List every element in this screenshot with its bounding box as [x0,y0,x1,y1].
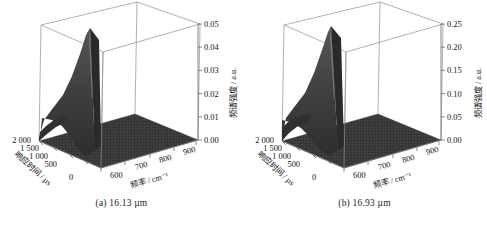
surface-peak-a [39,28,101,156]
surface-plot-b: 0.00 0.05 0.10 0.15 0.20 0.25 频谱强度 / a.u… [243,0,486,196]
y-tick-b-1: 1 000 [272,152,291,161]
x-tick-b-2: 700 [377,160,392,172]
x-tick-a-3: 800 [158,153,173,165]
plot-a-svg: 0.00 0.01 0.02 0.03 0.04 0.05 频谱强度 / a.u… [0,0,243,196]
x-tick-a-1: 600 [110,171,123,180]
z-tick-a-1: 0.01 [204,113,219,122]
y-tick-a-3: 2 000 [12,136,31,145]
z-tick-a-2: 0.02 [204,90,219,99]
y-tick-b-3: 2 000 [255,136,274,145]
x-tick-a-2: 700 [134,160,149,172]
panel-b: 0.00 0.05 0.10 0.15 0.20 0.25 频谱强度 / a.u… [243,0,486,231]
z-axis-label-a: 频谱强度 / a.u. [228,68,238,118]
x-tick-b-3: 800 [401,153,416,165]
z-tick-a-0: 0.00 [204,136,219,145]
z-tick-a-5: 0.05 [204,20,219,29]
x-tick-b-1: 600 [353,171,366,180]
z-tick-b-0: 0.00 [447,136,462,145]
surface-plot-a: 0.00 0.01 0.02 0.03 0.04 0.05 频谱强度 / a.u… [0,0,243,196]
y-tick-a-0: 500 [44,160,57,169]
y-tick-b-2: 1 500 [263,144,282,153]
x-axis-label-b: 频率 / cm⁻¹ [372,170,413,190]
z-tick-a-4: 0.04 [204,43,219,52]
x-tick-a-4: 900 [182,145,197,157]
z-tick-b-5: 0.25 [447,20,462,29]
y-tick-a-2: 1 500 [20,144,39,153]
y-tick-b-0: 500 [287,160,300,169]
z-axis-label-b: 频谱强度 / a.u. [473,68,483,118]
panel-b-caption: (b) 16.93 µm [243,198,486,208]
surface-peak-b [282,26,344,156]
y-tick-a-1: 1 000 [29,152,48,161]
z-tick-b-1: 0.05 [447,113,462,122]
z-tick-a-3: 0.03 [204,66,219,75]
x-tick-a-0: 0 [69,173,73,182]
plot-b-svg: 0.00 0.05 0.10 0.15 0.20 0.25 频谱强度 / a.u… [243,0,486,196]
panel-a: 0.00 0.01 0.02 0.03 0.04 0.05 频谱强度 / a.u… [0,0,243,231]
z-tick-b-4: 0.20 [447,43,462,52]
z-tick-b-2: 0.10 [447,90,462,99]
x-tick-b-0: 0 [312,173,316,182]
z-tick-b-3: 0.15 [447,66,462,75]
x-tick-b-4: 900 [425,145,440,157]
z-axis-a: 0.00 0.01 0.02 0.03 0.04 0.05 频谱强度 / a.u… [198,20,238,145]
figure-root: 0.00 0.01 0.02 0.03 0.04 0.05 频谱强度 / a.u… [0,0,487,231]
panel-a-caption: (a) 16.13 µm [0,198,243,208]
x-axis-label-a: 频率 / cm⁻¹ [129,170,170,190]
z-axis-b: 0.00 0.05 0.10 0.15 0.20 0.25 频谱强度 / a.u… [441,20,483,145]
